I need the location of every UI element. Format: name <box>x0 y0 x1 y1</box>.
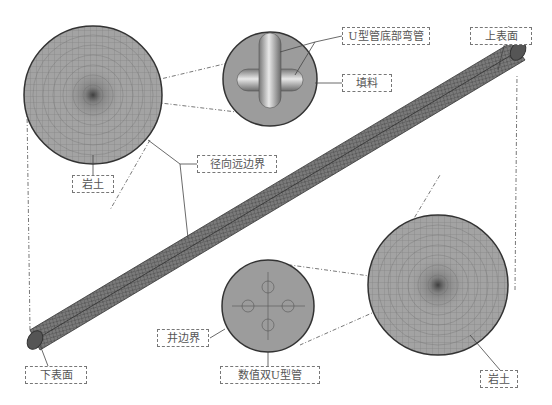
diagram-canvas <box>0 0 552 405</box>
label-bottom-surface: 下表面 <box>25 366 87 384</box>
label-fill: 填料 <box>342 74 392 92</box>
label-u-pipe-bottom-bend: U型管底部弯管 <box>342 27 430 45</box>
rock-soil-mesh-right <box>368 215 508 355</box>
label-top-surface: 上表面 <box>470 27 532 45</box>
rock-soil-mesh-left <box>24 26 162 164</box>
label-rock-soil-left: 岩土 <box>72 175 114 193</box>
u-pipe-detail-circle <box>223 32 317 126</box>
label-well-boundary: 井边界 <box>157 329 209 347</box>
label-radial-far-boundary: 径向远边界 <box>197 155 277 173</box>
label-rock-soil-right: 岩土 <box>480 370 518 388</box>
well-mesh-circle <box>222 260 314 352</box>
label-numerical-double-u-pipe: 数值双U型管 <box>220 366 320 384</box>
